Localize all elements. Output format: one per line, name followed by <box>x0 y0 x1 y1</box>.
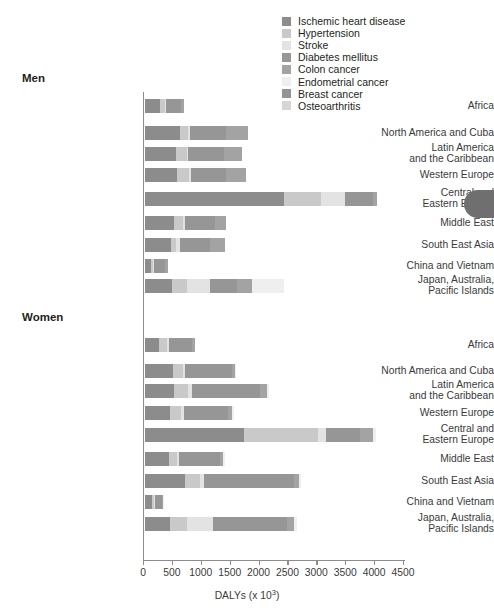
bar-segment <box>145 192 284 206</box>
bar-segment <box>145 517 170 531</box>
bar-segment <box>185 364 231 378</box>
bar-segment <box>145 126 180 140</box>
row-category-label: China and Vietnam <box>363 496 494 508</box>
bar-segment <box>145 384 174 398</box>
legend-item: Breast cancer <box>282 88 405 100</box>
bar-segment <box>318 428 326 442</box>
bar-segment <box>180 238 211 252</box>
stacked-bar <box>145 406 234 420</box>
bar-segment <box>260 384 267 398</box>
bar-segment <box>326 428 360 442</box>
bar-segment <box>187 517 212 531</box>
bar-segment <box>145 216 174 230</box>
edge-tab[interactable] <box>464 190 494 218</box>
bar-segment <box>172 279 186 293</box>
x-axis-tick <box>259 560 260 565</box>
chart-row: Central and Eastern Europe <box>0 192 494 206</box>
legend-item-label: Stroke <box>298 39 328 51</box>
bar-segment <box>173 364 183 378</box>
row-category-label: South East Asia <box>363 239 494 251</box>
chart-row: China and Vietnam <box>0 495 494 509</box>
row-category-label: Africa <box>363 100 494 112</box>
legend-swatch-icon <box>282 17 291 26</box>
bar-segment <box>145 279 172 293</box>
bar-segment <box>321 192 345 206</box>
bar-segment <box>204 474 294 488</box>
legend-item-label: Hypertension <box>298 27 360 39</box>
stacked-bar <box>145 99 184 113</box>
row-category-label: North America and Cuba <box>363 127 494 139</box>
x-axis-tick <box>201 560 202 565</box>
bar-segment <box>185 216 215 230</box>
bar-segment <box>223 452 225 466</box>
bar-segment <box>145 147 176 161</box>
legend-item-label: Ischemic heart disease <box>298 15 405 27</box>
bar-segment <box>210 279 237 293</box>
bar-segment <box>188 147 223 161</box>
bar-segment <box>345 192 373 206</box>
row-category-label: Japan, Australia, Pacific Islands <box>363 512 494 535</box>
x-axis-tick-label: 3500 <box>334 567 357 578</box>
stacked-bar <box>145 279 284 293</box>
stacked-bar <box>145 168 246 182</box>
row-category-label: Latin America and the Caribbean <box>363 379 494 402</box>
x-axis-tick-label: 3000 <box>305 567 328 578</box>
legend-item-label: Colon cancer <box>298 63 360 75</box>
row-category-label: Latin America and the Caribbean <box>363 142 494 165</box>
bar-segment <box>190 126 226 140</box>
bar-segment <box>174 384 188 398</box>
legend-item-label: Breast cancer <box>298 88 363 100</box>
chart-row: Middle East <box>0 452 494 466</box>
row-category-label: Africa <box>363 339 494 351</box>
bar-segment <box>181 99 183 113</box>
bar-segment <box>244 428 319 442</box>
x-axis-tick-label: 0 <box>140 567 146 578</box>
legend-item-label: Diabetes mellitus <box>298 51 378 63</box>
legend-swatch-icon <box>282 29 291 38</box>
bar-segment <box>170 517 187 531</box>
stacked-bar <box>145 259 168 273</box>
chart-row: Western Europe <box>0 406 494 420</box>
bar-segment <box>373 192 376 206</box>
x-axis-tick <box>143 560 144 565</box>
row-category-label: Western Europe <box>363 169 494 181</box>
bar-segment <box>373 428 376 442</box>
stacked-bar <box>145 517 297 531</box>
bar-segment <box>226 168 246 182</box>
stacked-bar <box>145 126 248 140</box>
x-axis-tick <box>287 560 288 565</box>
bar-segment <box>192 338 195 352</box>
bar-segment <box>145 452 169 466</box>
bar-segment <box>145 474 185 488</box>
chart-row: North America and Cuba <box>0 364 494 378</box>
chart-row: Latin America and the Caribbean <box>0 384 494 398</box>
bar-segment <box>170 406 182 420</box>
legend-swatch-icon <box>282 65 291 74</box>
chart-row: China and Vietnam <box>0 259 494 273</box>
stacked-bar <box>145 364 236 378</box>
bar-segment <box>145 338 159 352</box>
bar-segment <box>299 474 301 488</box>
bar-segment <box>287 517 294 531</box>
bar-segment <box>166 99 181 113</box>
bar-segment <box>169 338 192 352</box>
bar-segment <box>145 428 244 442</box>
chart-row: Middle East <box>0 216 494 230</box>
bar-segment <box>145 168 177 182</box>
stacked-bar <box>145 474 301 488</box>
bar-segment <box>237 279 252 293</box>
bar-segment <box>145 364 173 378</box>
x-axis-label: DALYs (x 103) <box>0 588 494 601</box>
legend-item: Hypertension <box>282 27 405 39</box>
chart-row: South East Asia <box>0 474 494 488</box>
bar-segment <box>169 452 177 466</box>
bar-segment <box>145 99 160 113</box>
row-category-label: China and Vietnam <box>363 260 494 272</box>
bar-segment <box>213 517 288 531</box>
bar-segment <box>252 279 284 293</box>
chart-row: Africa <box>0 338 494 352</box>
panel-title-women: Women <box>22 311 63 323</box>
stacked-bar <box>145 495 163 509</box>
x-axis-tick-label: 4000 <box>363 567 386 578</box>
panel-title-men: Men <box>22 72 45 84</box>
